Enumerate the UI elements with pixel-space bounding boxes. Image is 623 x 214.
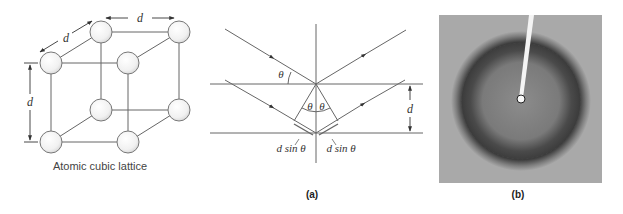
atom bbox=[90, 99, 112, 121]
incident-ray-upper bbox=[225, 29, 316, 84]
panel-b-label: (b) bbox=[512, 189, 525, 200]
atom bbox=[117, 131, 139, 153]
theta-arc-outer bbox=[288, 72, 291, 84]
atom bbox=[168, 99, 190, 121]
lattice-dim-top-label: d bbox=[137, 11, 144, 25]
reflected-ray-upper bbox=[316, 30, 406, 84]
lattice-caption: Atomic cubic lattice bbox=[53, 160, 147, 172]
cubic-lattice-diagram bbox=[51, 32, 179, 142]
diffraction-photo bbox=[439, 15, 602, 183]
beam-stop bbox=[517, 95, 525, 103]
theta-right-label: θ bbox=[319, 100, 325, 112]
atom bbox=[40, 52, 62, 74]
atom bbox=[117, 52, 139, 74]
path-diff-left-label: d sin θ bbox=[276, 142, 306, 154]
theta-outer-label: θ bbox=[278, 68, 284, 80]
path-diff-right-label: d sin θ bbox=[326, 142, 356, 154]
lattice-dim-diag-label: d bbox=[63, 31, 70, 45]
panel-a-label: (a) bbox=[306, 189, 318, 200]
bragg-diagram bbox=[210, 24, 423, 163]
lattice-dim-left-label: d bbox=[27, 95, 34, 109]
atom bbox=[168, 21, 190, 43]
atom bbox=[90, 21, 112, 43]
atom bbox=[40, 131, 62, 153]
bragg-spacing-label: d bbox=[407, 102, 414, 116]
theta-left-label: θ bbox=[307, 100, 313, 112]
